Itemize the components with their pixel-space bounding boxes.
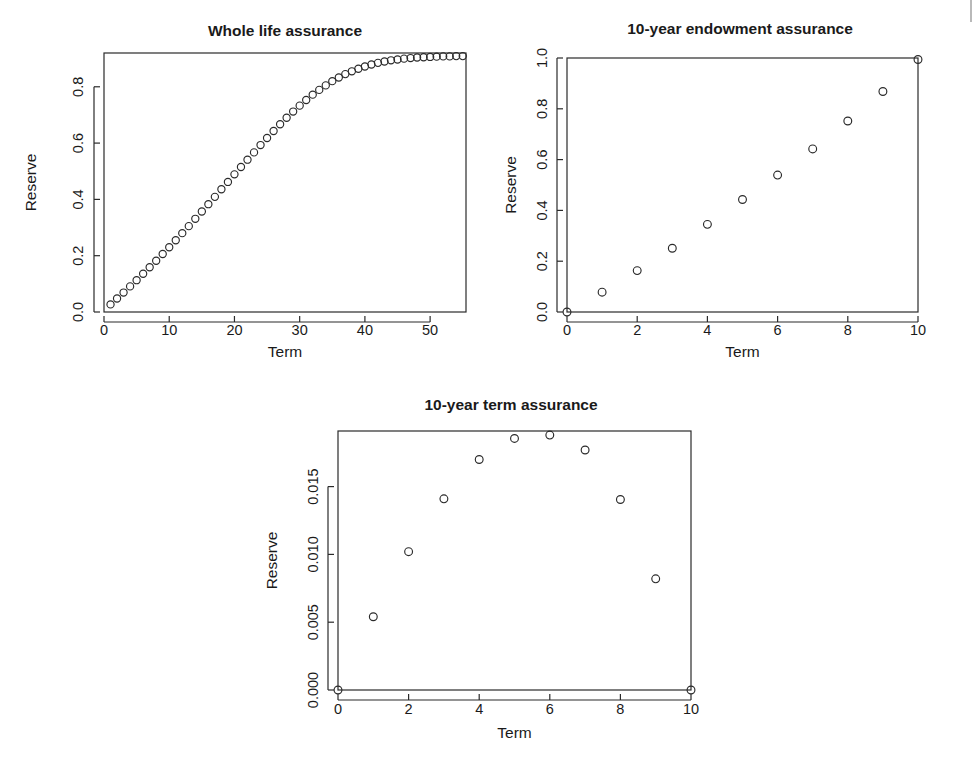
data-point [844, 117, 852, 125]
x-axis-label: Term [497, 724, 531, 741]
data-point [218, 186, 225, 193]
x-tick-label: 10 [683, 701, 699, 717]
y-axis-label: Reserve [502, 156, 519, 214]
data-point [198, 208, 205, 215]
data-point [511, 435, 519, 443]
x-axis-label: Term [725, 343, 759, 360]
data-point [879, 88, 887, 96]
y-tick-label: 0.8 [70, 77, 86, 97]
y-axis-label: Reserve [22, 154, 39, 212]
data-point [652, 575, 660, 583]
data-point [126, 283, 133, 290]
figure-canvas: Whole life assurance010203040500.00.20.4… [0, 0, 972, 776]
data-point [205, 201, 212, 208]
data-point [617, 496, 625, 504]
data-point [211, 193, 218, 200]
plot-panel-ten-year-endowment-assurance: 10-year endowment assurance02468100.00.2… [490, 0, 972, 390]
data-point [244, 156, 251, 163]
data-point [192, 215, 199, 222]
plot-title: 10-year endowment assurance [627, 20, 853, 37]
plot-ten-year-endowment-assurance: 10-year endowment assurance02468100.00.2… [490, 0, 972, 390]
data-point [322, 82, 329, 89]
data-point [237, 163, 244, 170]
y-tick-label: 0.015 [305, 468, 321, 504]
x-tick-label: 0 [100, 322, 108, 338]
y-tick-label: 0.0 [534, 302, 550, 322]
data-point [290, 108, 297, 115]
data-point [581, 446, 589, 454]
x-tick-label: 40 [357, 322, 373, 338]
plot-frame [338, 431, 691, 690]
data-point [159, 250, 166, 257]
data-point [668, 244, 676, 252]
data-point [296, 102, 303, 109]
x-tick-label: 0 [563, 322, 571, 338]
y-tick-label: 0.2 [70, 246, 86, 266]
data-point [113, 295, 120, 302]
x-tick-label: 30 [292, 322, 308, 338]
y-tick-label: 0.010 [305, 536, 321, 572]
data-point [303, 96, 310, 103]
y-tick-label: 1.0 [534, 48, 550, 68]
y-tick-label: 0.2 [534, 251, 550, 271]
x-tick-label: 0 [334, 701, 342, 717]
data-point [369, 613, 377, 621]
data-point [107, 301, 114, 308]
y-tick-label: 0.000 [305, 672, 321, 708]
x-tick-label: 8 [616, 701, 624, 717]
data-point [405, 548, 413, 556]
data-point [263, 134, 270, 141]
data-point [231, 171, 238, 178]
data-point [633, 267, 641, 275]
y-tick-label: 0.0 [70, 302, 86, 322]
data-point-group [334, 431, 695, 694]
data-point [809, 145, 817, 153]
plot-panel-whole-life-assurance: Whole life assurance010203040500.00.20.4… [0, 0, 490, 390]
data-point-group [107, 53, 466, 309]
y-tick-label: 0.6 [70, 133, 86, 153]
plot-frame [104, 53, 466, 312]
plot-whole-life-assurance: Whole life assurance010203040500.00.20.4… [0, 0, 490, 390]
data-point [140, 270, 147, 277]
data-point [166, 244, 173, 251]
data-point [475, 456, 483, 464]
data-point [598, 288, 606, 296]
y-tick-label: 0.8 [534, 99, 550, 119]
data-point [250, 149, 257, 156]
plot-frame [567, 58, 918, 312]
data-point-group [563, 56, 922, 316]
y-axis-label: Reserve [263, 532, 280, 590]
x-tick-label: 10 [910, 322, 926, 338]
y-tick-label: 0.4 [534, 200, 550, 220]
data-point [440, 495, 448, 503]
x-tick-label: 50 [422, 322, 438, 338]
plot-panel-ten-year-term-assurance: 10-year term assurance02468100.0000.0050… [243, 388, 725, 776]
data-point [704, 220, 712, 228]
plot-ten-year-term-assurance: 10-year term assurance02468100.0000.0050… [243, 388, 725, 776]
data-point [172, 237, 179, 244]
data-point [185, 223, 192, 230]
x-axis-label: Term [268, 343, 302, 360]
x-tick-label: 2 [633, 322, 641, 338]
y-tick-label: 0.4 [70, 189, 86, 209]
plot-title: 10-year term assurance [424, 396, 598, 413]
plot-title: Whole life assurance [208, 22, 363, 39]
data-point [283, 114, 290, 121]
y-tick-label: 0.6 [534, 150, 550, 170]
data-point [316, 86, 323, 93]
x-tick-label: 6 [774, 322, 782, 338]
data-point [120, 289, 127, 296]
x-tick-label: 4 [475, 701, 483, 717]
data-point [277, 121, 284, 128]
data-point [153, 257, 160, 264]
data-point [146, 264, 153, 271]
data-point [309, 91, 316, 98]
data-point [133, 277, 140, 284]
data-point [270, 127, 277, 134]
data-point [546, 431, 554, 439]
x-tick-label: 10 [161, 322, 177, 338]
data-point [739, 196, 747, 204]
x-tick-label: 8 [844, 322, 852, 338]
data-point [774, 171, 782, 179]
data-point [257, 141, 264, 148]
